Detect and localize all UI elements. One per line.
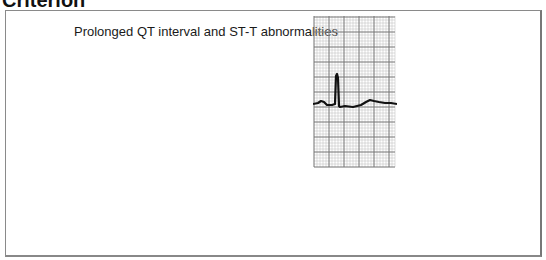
criterion-panel: Prolonged QT interval and ST-T abnormali… [5, 10, 542, 257]
section-heading: Criterion [2, 0, 85, 10]
ecg-strip-figure [313, 16, 397, 168]
criterion-label: Prolonged QT interval and ST-T abnormali… [74, 24, 338, 39]
